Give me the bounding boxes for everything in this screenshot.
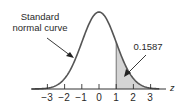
tick-label-2: 2 <box>130 92 136 103</box>
tick-label-1: 1 <box>113 92 119 103</box>
tick-label-neg1: −1 <box>75 92 87 103</box>
arrow-icon <box>47 38 74 58</box>
tick-label-neg2: −2 <box>58 92 70 103</box>
tick-label-neg3: −3 <box>41 92 53 103</box>
arrow-icon <box>124 55 146 77</box>
normal-curve-chart: −3 −2 −1 0 1 2 3 z Standard normal curve… <box>0 0 186 105</box>
axis-variable-label: z <box>169 83 175 93</box>
tick-label-3: 3 <box>147 92 153 103</box>
curve-annotation-line1: Standard <box>21 11 60 22</box>
tick-label-0: 0 <box>96 92 102 103</box>
curve-annotation-line2: normal curve <box>13 22 68 33</box>
tail-area-value: 0.1587 <box>133 41 162 52</box>
